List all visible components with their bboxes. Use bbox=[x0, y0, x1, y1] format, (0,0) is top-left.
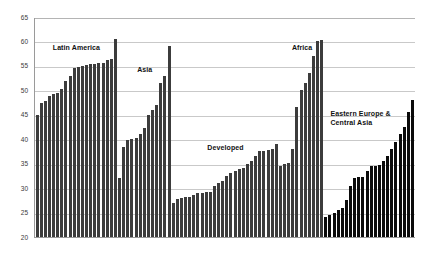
bar bbox=[122, 147, 125, 237]
bar bbox=[337, 210, 340, 237]
bar bbox=[382, 161, 385, 237]
bar bbox=[349, 186, 352, 237]
y-tick-label-45: 45 bbox=[0, 112, 28, 119]
bar bbox=[217, 183, 220, 237]
bar bbox=[312, 56, 315, 237]
bar bbox=[102, 63, 105, 237]
bar bbox=[77, 67, 80, 237]
bar bbox=[196, 193, 199, 237]
bar bbox=[139, 134, 142, 237]
bar bbox=[163, 76, 166, 237]
bar bbox=[275, 144, 278, 237]
bar bbox=[399, 134, 402, 237]
y-tick-label-35: 35 bbox=[0, 161, 28, 168]
bar bbox=[118, 178, 121, 237]
bar bbox=[168, 46, 171, 237]
bar bbox=[73, 68, 76, 237]
bar bbox=[130, 139, 133, 237]
bar bbox=[143, 128, 146, 237]
bar bbox=[60, 89, 63, 237]
bar bbox=[271, 149, 274, 237]
plot-area: Latin AmericaAsiaDevelopedAfricaEastern … bbox=[34, 18, 415, 238]
bar bbox=[316, 41, 319, 237]
bar bbox=[386, 156, 389, 237]
bar bbox=[328, 215, 331, 237]
bar bbox=[52, 94, 55, 237]
bar-chart: 20253035404550556065 Latin AmericaAsiaDe… bbox=[0, 0, 421, 254]
bar bbox=[341, 208, 344, 237]
bar bbox=[184, 197, 187, 237]
y-tick-label-25: 25 bbox=[0, 210, 28, 217]
bar bbox=[192, 195, 195, 237]
group-label-africa: Africa bbox=[257, 44, 347, 53]
y-tick-label-20: 20 bbox=[0, 235, 28, 242]
bar bbox=[221, 181, 224, 237]
bar bbox=[378, 165, 381, 237]
bar bbox=[180, 198, 183, 237]
y-tick-label-65: 65 bbox=[0, 15, 28, 22]
bar bbox=[147, 115, 150, 237]
bar bbox=[411, 100, 414, 237]
bar bbox=[238, 169, 241, 237]
bar bbox=[262, 151, 265, 237]
bar bbox=[126, 140, 129, 237]
bar bbox=[291, 149, 294, 237]
group-label-developed: Developed bbox=[181, 144, 271, 153]
bar bbox=[258, 151, 261, 237]
y-tick-label-60: 60 bbox=[0, 39, 28, 46]
group-label-latin-america: Latin America bbox=[31, 44, 121, 53]
y-tick-label-40: 40 bbox=[0, 137, 28, 144]
y-axis: 20253035404550556065 bbox=[0, 0, 32, 254]
bar bbox=[320, 40, 323, 237]
bar bbox=[188, 197, 191, 237]
bar bbox=[295, 107, 298, 237]
bar bbox=[110, 59, 113, 237]
bar bbox=[225, 176, 228, 237]
bar bbox=[155, 105, 158, 237]
bar bbox=[201, 193, 204, 237]
bar bbox=[44, 101, 47, 237]
bar bbox=[176, 199, 179, 237]
bar bbox=[40, 103, 43, 237]
group-label-asia: Asia bbox=[100, 66, 190, 75]
bar bbox=[250, 161, 253, 237]
bar bbox=[106, 60, 109, 237]
y-tick-label-55: 55 bbox=[0, 63, 28, 70]
y-tick-label-30: 30 bbox=[0, 186, 28, 193]
bar bbox=[159, 83, 162, 237]
bar bbox=[357, 177, 360, 237]
bar bbox=[64, 81, 67, 237]
bar bbox=[172, 203, 175, 237]
bar bbox=[48, 96, 51, 237]
bar bbox=[93, 64, 96, 237]
bar bbox=[361, 177, 364, 237]
y-tick-label-50: 50 bbox=[0, 88, 28, 95]
bar bbox=[267, 150, 270, 237]
bar bbox=[390, 149, 393, 237]
bar bbox=[151, 110, 154, 237]
bar bbox=[304, 83, 307, 237]
bar bbox=[234, 171, 237, 237]
bar bbox=[36, 115, 39, 237]
bar bbox=[283, 164, 286, 237]
bar bbox=[209, 192, 212, 237]
bar bbox=[246, 164, 249, 237]
bar bbox=[407, 112, 410, 237]
bar bbox=[229, 173, 232, 237]
bar bbox=[85, 65, 88, 237]
bar bbox=[287, 163, 290, 237]
bar bbox=[213, 186, 216, 237]
bar bbox=[370, 166, 373, 237]
bar bbox=[300, 90, 303, 237]
bar bbox=[97, 63, 100, 237]
bar bbox=[254, 156, 257, 237]
bar bbox=[56, 93, 59, 237]
bar bbox=[89, 64, 92, 237]
bar bbox=[81, 66, 84, 237]
bar bbox=[242, 168, 245, 237]
bar bbox=[345, 200, 348, 237]
bar bbox=[135, 138, 138, 237]
bar bbox=[324, 217, 327, 237]
bar bbox=[353, 178, 356, 237]
bar bbox=[69, 76, 72, 237]
